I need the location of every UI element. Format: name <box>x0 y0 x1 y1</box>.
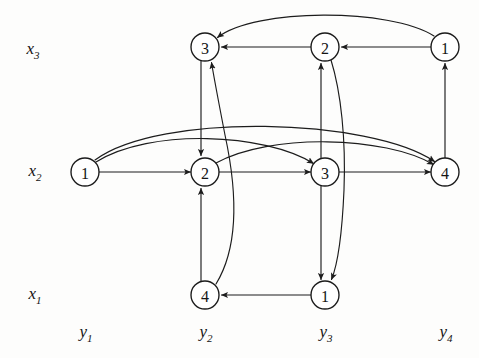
node-label: 1 <box>441 40 449 57</box>
row-label-x2: x2 <box>28 161 41 182</box>
edge-layer <box>95 15 445 295</box>
col-label-y1: y1 <box>79 322 92 343</box>
node-x3c4[interactable]: 1 <box>431 33 459 61</box>
node-x3c2[interactable]: 3 <box>191 33 219 61</box>
node-x1c2[interactable]: 4 <box>191 281 219 309</box>
col-label-y2-sub: 2 <box>207 332 213 344</box>
node-label: 4 <box>201 288 209 305</box>
col-label-y4-sub: 4 <box>447 332 453 344</box>
col-label-y3-base: y <box>319 322 327 341</box>
node-x2c4[interactable]: 4 <box>431 158 459 186</box>
node-x3c3[interactable]: 2 <box>311 33 339 61</box>
col-label-y4: y4 <box>439 322 452 343</box>
col-label-y3: y3 <box>319 322 332 343</box>
col-label-y2-base: y <box>199 322 207 341</box>
row-label-x2-base: x <box>28 161 36 180</box>
node-label: 1 <box>81 165 89 182</box>
node-x1c3[interactable]: 1 <box>311 281 339 309</box>
node-layer: 3 2 1 1 2 3 4 <box>71 33 459 309</box>
node-label: 4 <box>441 165 449 182</box>
graph-svg: 3 2 1 1 2 3 4 <box>0 0 479 358</box>
col-label-y2: y2 <box>199 322 212 343</box>
row-label-x3-sub: 3 <box>34 49 40 61</box>
node-label: 1 <box>321 288 329 305</box>
node-label: 3 <box>201 40 209 57</box>
row-label-x2-sub: 2 <box>36 171 42 183</box>
col-label-y1-base: y <box>79 322 87 341</box>
node-label: 2 <box>321 40 329 57</box>
node-x2c2[interactable]: 2 <box>191 158 219 186</box>
node-label: 2 <box>201 165 209 182</box>
col-label-y3-sub: 3 <box>327 332 333 344</box>
diagram-canvas: 3 2 1 1 2 3 4 <box>0 0 479 358</box>
row-label-x3-base: x <box>26 39 34 58</box>
node-label: 3 <box>321 165 329 182</box>
col-label-y4-base: y <box>439 322 447 341</box>
row-label-x1-base: x <box>28 284 36 303</box>
node-x2c1[interactable]: 1 <box>71 158 99 186</box>
node-x2c3[interactable]: 3 <box>311 158 339 186</box>
row-label-x1: x1 <box>28 284 41 305</box>
col-label-y1-sub: 1 <box>87 332 93 344</box>
row-label-x3: x3 <box>26 39 39 60</box>
row-label-x1-sub: 1 <box>36 294 42 306</box>
